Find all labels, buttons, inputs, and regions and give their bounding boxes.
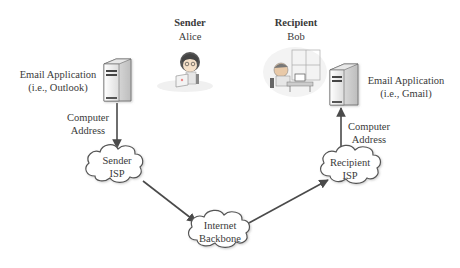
recipient-isp-label: Recipient ISP bbox=[322, 156, 378, 182]
sender-server-icon bbox=[104, 59, 131, 101]
recipient-app-label: Email Application (i.e., Gmail) bbox=[362, 74, 450, 100]
arrow-sender-isp-to-backbone bbox=[143, 181, 196, 222]
recipient-name-label: Bob bbox=[268, 30, 324, 43]
sender-computer-address-label: Computer Address bbox=[62, 111, 114, 137]
bob-illustration bbox=[263, 47, 327, 97]
backbone-line2: Backbone bbox=[192, 232, 248, 245]
recipient-address-line2: Address bbox=[343, 133, 395, 146]
backbone-line1: Internet bbox=[192, 219, 248, 232]
recipient-address-line1: Computer bbox=[343, 120, 395, 133]
sender-address-line2: Address bbox=[62, 124, 114, 137]
sender-name-label: Alice bbox=[166, 30, 214, 43]
recipient-server-icon bbox=[330, 64, 358, 105]
sender-isp-label: Sender ISP bbox=[92, 154, 142, 180]
sender-app-name: Email Application bbox=[14, 68, 102, 81]
recipient-role-label: Recipient bbox=[268, 16, 324, 29]
sender-address-line1: Computer bbox=[62, 111, 114, 124]
internet-backbone-label: Internet Backbone bbox=[192, 219, 248, 245]
sender-role-label: Sender bbox=[166, 16, 214, 29]
sender-app-example: (i.e., Outlook) bbox=[14, 81, 102, 94]
recipient-isp-line2: ISP bbox=[322, 169, 378, 182]
recipient-app-example: (i.e., Gmail) bbox=[362, 87, 450, 100]
sender-app-label: Email Application (i.e., Outlook) bbox=[14, 68, 102, 94]
recipient-isp-line1: Recipient bbox=[322, 156, 378, 169]
alice-illustration bbox=[157, 52, 213, 92]
arrow-backbone-to-recipient-isp bbox=[247, 180, 328, 224]
recipient-app-name: Email Application bbox=[362, 74, 450, 87]
sender-isp-line2: ISP bbox=[92, 167, 142, 180]
sender-isp-line1: Sender bbox=[92, 154, 142, 167]
recipient-computer-address-label: Computer Address bbox=[343, 120, 395, 146]
